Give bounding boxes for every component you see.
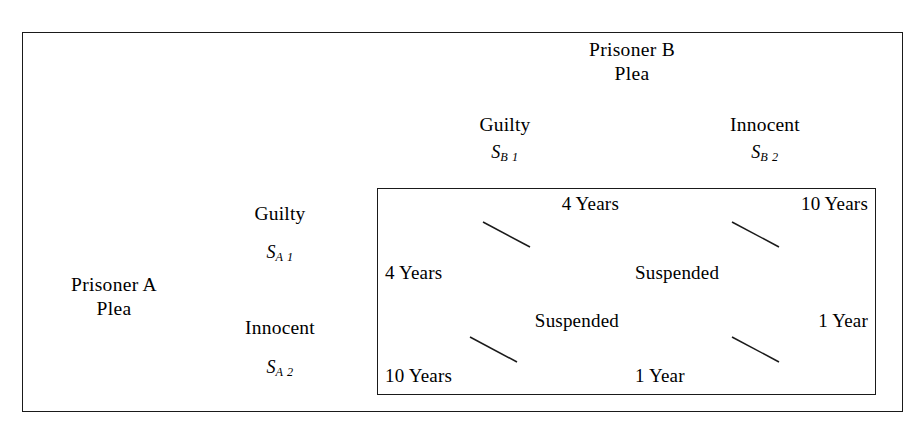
row-player-title-line1: Prisoner A xyxy=(71,275,157,295)
row-strategy-1-symbol-sub: A 1 xyxy=(275,250,293,264)
column-strategy-2-symbol: SB 2 xyxy=(751,143,778,164)
payoff-cell-a2-b2-row-value: 1 Year xyxy=(635,366,685,385)
payoff-cell-a1-b1: 4 Years 4 Years xyxy=(377,188,627,292)
column-player-title-line2: Plea xyxy=(589,64,675,84)
row-strategy-2-symbol-base: S xyxy=(266,357,275,377)
payoff-cell-a1-b2: 10 Years Suspended xyxy=(627,188,876,292)
column-strategy-1-name: Guilty xyxy=(479,115,530,135)
row-strategy-2-symbol-sub: A 2 xyxy=(275,365,293,379)
row-strategy-1-symbol: SA 1 xyxy=(266,243,293,264)
payoff-cell-a1-b2-row-value: Suspended xyxy=(635,263,719,282)
row-strategy-2-symbol: SA 2 xyxy=(266,358,293,379)
column-player-title-line1: Prisoner B xyxy=(589,40,675,60)
payoff-cell-a1-b1-row-value: 4 Years xyxy=(385,263,442,282)
column-strategy-2-name: Innocent xyxy=(730,115,800,135)
column-strategy-1-symbol: SB 1 xyxy=(491,143,518,164)
column-strategy-1-symbol-sub: B 1 xyxy=(500,150,518,164)
row-player-title: Prisoner A Plea xyxy=(71,275,157,318)
payoff-cell-a2-b1: Suspended 10 Years xyxy=(377,305,627,395)
row-strategy-1-name: Guilty xyxy=(254,204,305,224)
payoff-cell-a2-b2: 1 Year 1 Year xyxy=(627,305,876,395)
column-strategy-2-symbol-sub: B 2 xyxy=(760,150,778,164)
payoff-cell-a1-b2-column-value: 10 Years xyxy=(801,194,868,213)
payoff-matrix-figure: Prisoner B Plea Guilty SB 1 Innocent SB … xyxy=(0,0,920,433)
payoff-cell-a2-b1-column-value: Suspended xyxy=(535,311,619,330)
row-strategy-2-name: Innocent xyxy=(245,318,315,338)
payoff-cell-a2-b2-column-value: 1 Year xyxy=(818,311,868,330)
payoff-cell-a2-b1-row-value: 10 Years xyxy=(385,366,452,385)
row-strategy-1-symbol-base: S xyxy=(266,242,275,262)
column-strategy-2-symbol-base: S xyxy=(751,142,760,162)
column-strategy-1-symbol-base: S xyxy=(491,142,500,162)
payoff-cell-a1-b1-column-value: 4 Years xyxy=(562,194,619,213)
row-player-title-line2: Plea xyxy=(71,299,157,319)
column-player-title: Prisoner B Plea xyxy=(589,40,675,83)
